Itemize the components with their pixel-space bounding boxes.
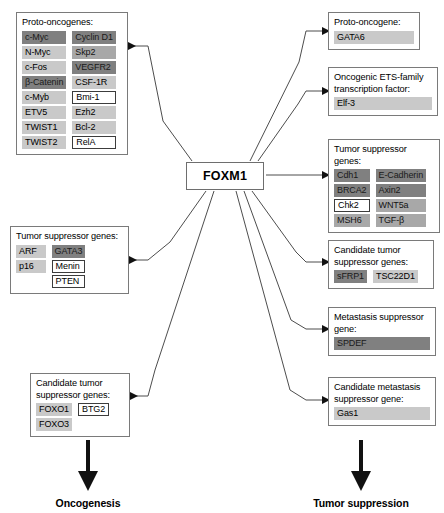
gene-chip[interactable]: GATA3 bbox=[52, 245, 86, 258]
gene-chip[interactable]: TSC22D1 bbox=[373, 270, 418, 283]
gene-columns: ARF p16 PTEN GATA3 Menin PTEN bbox=[16, 245, 123, 288]
gene-columns: sFRP1 TSC22D1 bbox=[334, 270, 428, 283]
gene-chip[interactable]: VEGFR2 bbox=[72, 61, 116, 74]
gene-column: SPDEF bbox=[334, 337, 430, 350]
gene-column: GATA6 bbox=[334, 31, 414, 44]
gene-column: Elf-3 bbox=[334, 97, 432, 110]
gene-chip[interactable]: Cyclin D1 bbox=[72, 31, 116, 44]
gene-chip[interactable]: Bmi-1 bbox=[72, 91, 116, 104]
panel-tumor-suppressor-genes-left: Tumor suppressor genes: ARF p16 PTEN GAT… bbox=[10, 226, 129, 294]
gene-chip[interactable]: Axin2 bbox=[376, 184, 427, 197]
gene-chip[interactable]: Menin bbox=[52, 260, 86, 273]
panel-metastasis-suppressor-gene: Metastasis suppressor gene: SPDEF bbox=[328, 307, 436, 356]
gene-chip[interactable]: E-Cadherin bbox=[376, 169, 427, 182]
gene-columns: FOXO1 FOXO3 BTG2 bbox=[36, 403, 124, 431]
gene-chip[interactable]: BRCA2 bbox=[334, 184, 370, 197]
gene-column: Cyclin D1 Skp2 VEGFR2 CSF-1R Bmi-1 Ezh2 … bbox=[72, 31, 116, 149]
gene-chip[interactable]: CSF-1R bbox=[72, 76, 116, 89]
gene-column: Cdh1 BRCA2 Chk2 MSH6 bbox=[334, 169, 370, 227]
gene-column: c-Myc N-Myc c-Fos β-Catenin c-Myb ETV5 T… bbox=[22, 31, 66, 149]
gene-chip[interactable]: Chk2 bbox=[334, 199, 370, 212]
connector-to-ets-family bbox=[258, 91, 322, 161]
gene-column: E-Cadherin Axin2 WNT5a TGF-β bbox=[376, 169, 427, 227]
gene-column: sFRP1 bbox=[334, 270, 367, 283]
panel-proto-oncogene: Proto-oncogene: GATA6 bbox=[328, 12, 420, 50]
gene-chip[interactable]: FOXO1 bbox=[36, 403, 72, 416]
gene-chip[interactable]: Cdh1 bbox=[334, 169, 370, 182]
panel-title: Candidate tumor suppressor genes: bbox=[334, 245, 428, 268]
gene-chip[interactable]: p16 bbox=[16, 260, 46, 273]
gene-column: FOXO1 FOXO3 bbox=[36, 403, 72, 431]
outcome-label-oncogenesis: Oncogenesis bbox=[18, 497, 158, 509]
panel-title: Candidate metastasis suppressor gene: bbox=[334, 382, 430, 405]
diagram-canvas: Proto-oncogenes: c-Myc N-Myc c-Fos β-Cat… bbox=[0, 0, 444, 513]
gene-chip[interactable]: RelA bbox=[72, 136, 116, 149]
panel-title: Oncogenic ETS-family transcription facto… bbox=[334, 72, 432, 95]
gene-chip[interactable]: Skp2 bbox=[72, 46, 116, 59]
oncogenesis-arrow bbox=[78, 440, 98, 491]
foxm1-node[interactable]: FOXM1 bbox=[186, 162, 264, 190]
gene-chip[interactable]: Gas1 bbox=[334, 407, 430, 420]
connector-to-candidate-tumor-suppressor-left bbox=[130, 191, 214, 396]
panel-title: Metastasis suppressor gene: bbox=[334, 312, 430, 335]
panel-title: Tumor suppressor genes: bbox=[334, 144, 434, 167]
gene-chip[interactable]: N-Myc bbox=[22, 46, 66, 59]
connector-to-proto-oncogenes bbox=[128, 46, 192, 161]
gene-chip[interactable]: TGF-β bbox=[376, 214, 427, 227]
panel-title: Tumor suppressor genes: bbox=[16, 231, 123, 243]
gene-chip[interactable]: MSH6 bbox=[334, 214, 370, 227]
panel-oncogenic-ets-family-transcription-factor: Oncogenic ETS-family transcription facto… bbox=[328, 67, 438, 116]
panel-candidate-tumor-suppressor-genes-right: Candidate tumor suppressor genes: sFRP1 … bbox=[328, 240, 434, 289]
panel-tumor-suppressor-genes-right: Tumor suppressor genes: Cdh1 BRCA2 Chk2 … bbox=[328, 139, 440, 233]
gene-chip[interactable]: BTG2 bbox=[78, 403, 109, 416]
connector-to-tumor-suppressor-left bbox=[129, 191, 206, 260]
panel-title: Proto-oncogene: bbox=[334, 17, 414, 29]
gene-chip[interactable]: PTEN bbox=[52, 275, 86, 288]
gene-chip[interactable]: c-Myb bbox=[22, 91, 66, 104]
tumor-suppression-arrow bbox=[351, 440, 371, 491]
gene-chip[interactable]: TWIST1 bbox=[22, 121, 66, 134]
gene-chip[interactable]: c-Fos bbox=[22, 61, 66, 74]
connector-to-candidate-metastasis-suppressor bbox=[236, 191, 322, 400]
panel-proto-oncogenes: Proto-oncogenes: c-Myc N-Myc c-Fos β-Cat… bbox=[16, 12, 128, 155]
gene-chip[interactable]: ARF bbox=[16, 245, 46, 258]
gene-chip[interactable]: TWIST2 bbox=[22, 136, 66, 149]
panel-title: Candidate tumor suppressor genes: bbox=[36, 378, 124, 401]
panel-title: Proto-oncogenes: bbox=[22, 17, 122, 29]
gene-chip[interactable]: Bcl-2 bbox=[72, 121, 116, 134]
gene-column: Gas1 bbox=[334, 407, 430, 420]
gene-chip[interactable]: sFRP1 bbox=[334, 270, 367, 283]
gene-chip[interactable]: FOXO3 bbox=[36, 418, 72, 431]
panel-candidate-metastasis-suppressor-gene: Candidate metastasis suppressor gene: Ga… bbox=[328, 377, 436, 426]
gene-chip[interactable]: Elf-3 bbox=[334, 97, 432, 110]
connector-to-metastasis-suppressor bbox=[244, 191, 322, 329]
gene-columns: Cdh1 BRCA2 Chk2 MSH6 E-Cadherin Axin2 WN… bbox=[334, 169, 434, 227]
gene-column: TSC22D1 bbox=[373, 270, 418, 283]
gene-column: ARF p16 PTEN bbox=[16, 245, 46, 288]
gene-chip[interactable]: WNT5a bbox=[376, 199, 427, 212]
foxm1-label: FOXM1 bbox=[203, 169, 247, 183]
gene-column: BTG2 bbox=[78, 403, 109, 416]
gene-chip[interactable]: GATA6 bbox=[334, 31, 414, 44]
panel-candidate-tumor-suppressor-genes-left: Candidate tumor suppressor genes: FOXO1 … bbox=[30, 373, 130, 437]
gene-chip[interactable]: Ezh2 bbox=[72, 106, 116, 119]
gene-chip[interactable]: c-Myc bbox=[22, 31, 66, 44]
gene-columns: c-Myc N-Myc c-Fos β-Catenin c-Myb ETV5 T… bbox=[22, 31, 122, 149]
gene-chip[interactable]: ETV5 bbox=[22, 106, 66, 119]
connector-to-proto-oncogene-right bbox=[250, 31, 322, 161]
gene-column: GATA3 Menin PTEN bbox=[52, 245, 86, 288]
connector-to-candidate-tumor-suppressor-right bbox=[252, 191, 322, 262]
outcome-label-tumor-suppression: Tumor suppression bbox=[281, 497, 441, 509]
gene-chip[interactable]: β-Catenin bbox=[22, 76, 66, 89]
gene-chip[interactable]: SPDEF bbox=[334, 337, 430, 350]
